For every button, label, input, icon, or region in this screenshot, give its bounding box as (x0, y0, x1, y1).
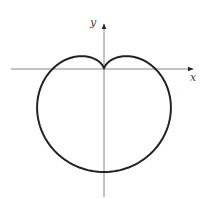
y-axis-label: y (90, 17, 96, 28)
cardioid-plot: y x (0, 0, 205, 198)
x-axis-label: x (190, 72, 196, 83)
plot-canvas (0, 0, 205, 198)
